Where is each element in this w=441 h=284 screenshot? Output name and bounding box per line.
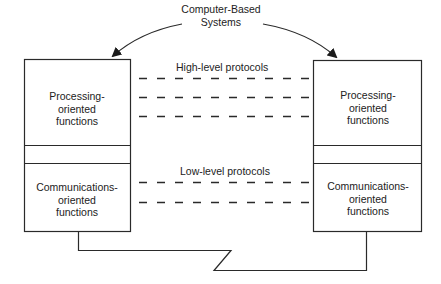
high-level-protocol-lines (139, 79, 313, 117)
left-communications-functions: Communications- oriented functions (24, 181, 130, 219)
right-communications-functions: Communications- oriented functions (314, 180, 422, 218)
title-line-1: Computer-Based (170, 3, 272, 16)
high-level-protocols-label: High-level protocols (176, 61, 268, 74)
arrow-to-right-system (263, 24, 336, 57)
physical-link-line (79, 231, 367, 271)
diagram-title: Computer-Based Systems (170, 3, 272, 28)
left-processing-functions: Processing- oriented functions (24, 90, 130, 128)
title-line-2: Systems (170, 16, 272, 29)
right-processing-functions: Processing- oriented functions (314, 89, 422, 127)
low-level-protocol-lines (139, 183, 313, 203)
arrow-to-left-system (113, 24, 182, 56)
diagram-canvas (0, 0, 441, 284)
low-level-protocols-label: Low-level protocols (180, 165, 270, 178)
